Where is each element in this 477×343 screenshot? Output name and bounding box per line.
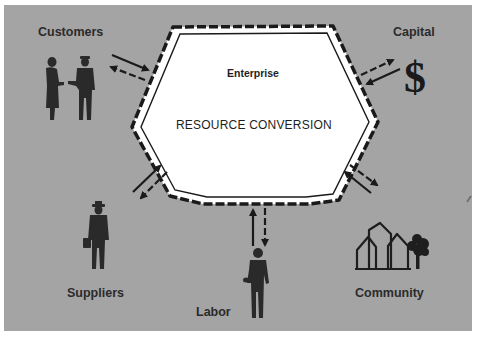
worker-icon	[243, 248, 269, 318]
scan-mark	[467, 196, 471, 202]
tree-icon	[407, 234, 429, 269]
dollar-sign-icon: $	[404, 56, 426, 100]
capital-flow-arrows	[361, 60, 400, 84]
community-label: Community	[355, 286, 424, 300]
houses-tree-icon	[355, 223, 411, 269]
labor-flow-arrows	[253, 208, 265, 246]
enterprise-label: Enterprise	[227, 67, 279, 79]
handshake-people-icon	[46, 56, 95, 120]
resource-conversion-label: RESOURCE CONVERSION	[176, 118, 332, 132]
labor-label: Labor	[196, 305, 231, 319]
customers-label: Customers	[38, 25, 103, 39]
suppliers-label: Suppliers	[67, 286, 124, 300]
customers-flow-arrows	[111, 55, 148, 80]
enterprise-hexagon	[132, 26, 378, 204]
capital-label: Capital	[393, 25, 435, 39]
businessman-briefcase-icon	[83, 201, 109, 269]
